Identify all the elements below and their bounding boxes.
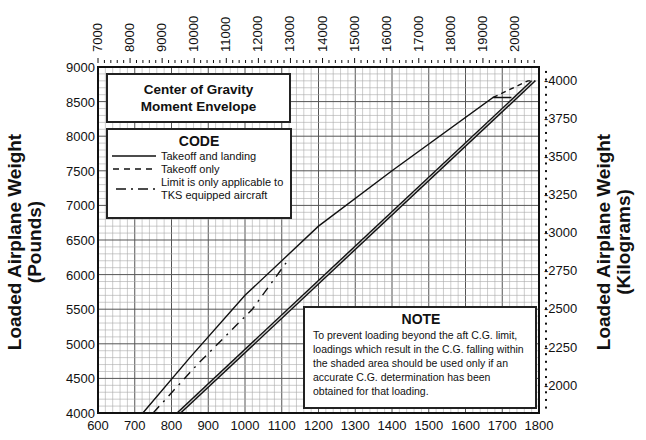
svg-text:-2750: -2750 xyxy=(544,263,577,278)
svg-text:1500: 1500 xyxy=(414,418,443,433)
legend-box: CODE Takeoff and landing Takeoff only Li… xyxy=(106,128,292,219)
svg-text:5000: 5000 xyxy=(66,337,95,352)
svg-text:8000: 8000 xyxy=(66,129,95,144)
svg-text:1700: 1700 xyxy=(488,418,517,433)
svg-text:-4000: -4000 xyxy=(544,73,577,88)
svg-text:5500: 5500 xyxy=(66,302,95,317)
svg-text:7000: 7000 xyxy=(66,198,95,213)
svg-text:20000: 20000 xyxy=(507,16,522,52)
legend-item-solid: Takeoff and landing xyxy=(112,150,290,163)
dashdot-line-icon xyxy=(112,182,156,196)
svg-text:1800: 1800 xyxy=(525,418,554,433)
legend-header: CODE xyxy=(108,133,290,149)
svg-text:1200: 1200 xyxy=(304,418,333,433)
note-header: NOTE xyxy=(313,311,529,327)
right-y-label-line2: (Kilograms) xyxy=(614,122,634,362)
svg-text:6000: 6000 xyxy=(66,268,95,283)
svg-text:-2250: -2250 xyxy=(544,340,577,355)
svg-text:15000: 15000 xyxy=(347,16,362,52)
svg-text:1600: 1600 xyxy=(451,418,480,433)
svg-text:14000: 14000 xyxy=(315,16,330,52)
note-text: To prevent loading beyond the aft C.G. l… xyxy=(313,328,529,398)
legend-item-dashdot: Limit is only applicable to TKS equipped… xyxy=(112,176,290,201)
svg-text:16000: 16000 xyxy=(379,16,394,52)
svg-text:9000: 9000 xyxy=(154,23,169,52)
right-y-axis-label: Loaded Airplane Weight (Kilograms) xyxy=(594,122,634,362)
svg-text:10000: 10000 xyxy=(186,16,201,52)
svg-text:18000: 18000 xyxy=(443,16,458,52)
svg-text:-2000: -2000 xyxy=(544,378,577,393)
svg-text:19000: 19000 xyxy=(475,16,490,52)
svg-text:7500: 7500 xyxy=(66,164,95,179)
dashed-line-icon xyxy=(112,166,156,172)
chart-title-line1: Center of Gravity xyxy=(108,81,289,98)
y-axis-ticks: 4000450050005500600065007000750080008500… xyxy=(66,60,95,421)
svg-text:800: 800 xyxy=(161,418,183,433)
legend-label: Takeoff only xyxy=(161,163,220,176)
left-y-label-line2: (Pounds) xyxy=(25,122,45,362)
svg-text:12000: 12000 xyxy=(250,16,265,52)
svg-text:8000: 8000 xyxy=(122,23,137,52)
svg-text:1300: 1300 xyxy=(341,418,370,433)
legend-item-dashed: Takeoff only xyxy=(112,163,290,176)
svg-text:1100: 1100 xyxy=(268,418,296,433)
svg-text:900: 900 xyxy=(197,418,219,433)
note-box: NOTE To prevent loading beyond the aft C… xyxy=(303,306,537,409)
svg-text:-3750: -3750 xyxy=(544,111,577,126)
svg-text:1400: 1400 xyxy=(378,418,407,433)
svg-text:6500: 6500 xyxy=(66,233,95,248)
solid-line-icon xyxy=(112,153,156,159)
svg-text:1000: 1000 xyxy=(231,418,260,433)
right-y-label-line1: Loaded Airplane Weight xyxy=(594,122,614,362)
svg-text:4500: 4500 xyxy=(66,371,95,386)
svg-text:9000: 9000 xyxy=(66,60,95,75)
legend-label: Limit is only applicable to TKS equipped… xyxy=(161,176,283,201)
right-axis-ticks: -4000-3750-3500-3250-3000-2750-2500-2250… xyxy=(544,71,577,409)
svg-text:11000: 11000 xyxy=(218,17,233,52)
top-axis-ticks: 7000800090001000011000120001300014000150… xyxy=(90,16,534,63)
x-axis-ticks: 6007008009001000110012001300140015001600… xyxy=(87,418,553,433)
svg-text:8500: 8500 xyxy=(66,95,95,110)
svg-text:4000: 4000 xyxy=(66,406,95,421)
svg-text:700: 700 xyxy=(124,418,146,433)
chart-title-line2: Moment Envelope xyxy=(108,98,289,115)
left-y-label-line1: Loaded Airplane Weight xyxy=(5,122,25,362)
svg-text:-2500: -2500 xyxy=(544,301,577,316)
legend-label-line1: Limit is only applicable to xyxy=(161,176,283,188)
svg-text:-3000: -3000 xyxy=(544,225,577,240)
chart-title-box: Center of Gravity Moment Envelope xyxy=(106,73,291,123)
svg-text:13000: 13000 xyxy=(282,16,297,52)
svg-text:-3250: -3250 xyxy=(544,187,577,202)
left-y-axis-label: Loaded Airplane Weight (Pounds) xyxy=(5,122,45,362)
svg-text:17000: 17000 xyxy=(411,16,426,52)
svg-text:7000: 7000 xyxy=(90,23,105,52)
legend-label: Takeoff and landing xyxy=(161,150,256,163)
legend-label-line2: TKS equipped aircraft xyxy=(161,189,267,201)
svg-text:-3500: -3500 xyxy=(544,149,577,164)
